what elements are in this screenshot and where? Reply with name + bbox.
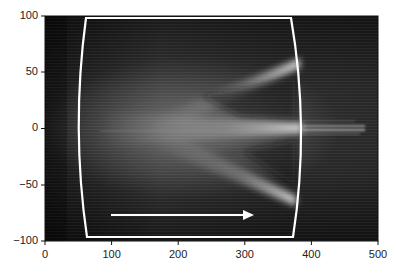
x-tick-label: 300 [230,249,260,260]
x-tick-label: 400 [296,249,326,260]
image-area [40,16,378,241]
y-tick-label: −50 [4,179,38,190]
y-tick-label: 50 [4,66,38,77]
x-tick-label: 100 [97,249,127,260]
y-tick-label: −100 [4,235,38,246]
x-tick-label: 500 [363,249,393,260]
y-tick-label: 100 [4,10,38,21]
x-tick-label: 0 [30,249,60,260]
heatmap-plot [0,0,396,273]
figure: 100 50 0 −50 −100 0 100 200 300 400 500 [0,0,396,273]
x-ticks [45,241,378,245]
y-tick-label: 0 [4,122,38,133]
y-ticks [41,16,45,241]
x-tick-label: 200 [163,249,193,260]
